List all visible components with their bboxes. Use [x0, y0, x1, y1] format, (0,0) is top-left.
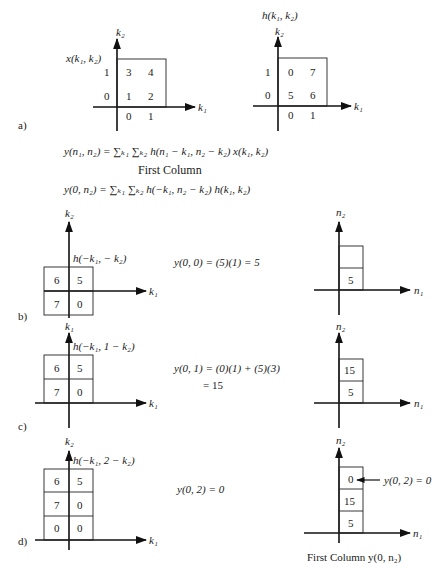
shifted-h-plot: k₁ k₁ h(−k₁, 1 − k₂) 6 5 7 0 — [35, 320, 158, 428]
axis-label-k1: k₁ — [149, 285, 158, 297]
convolution-diagram: a) k₂ k₁ x(k₁, k₂) 1 0 0 1 3 4 1 2 h(k₁,… — [0, 0, 442, 568]
cell: 0 — [77, 386, 83, 398]
axis-label-k1: k₁ — [354, 100, 363, 112]
h-value-1-0: 6 — [310, 89, 316, 101]
panel-label-d: d) — [18, 535, 28, 548]
row-tick-0: 0 — [265, 89, 271, 101]
panel-label-c: c) — [18, 420, 27, 433]
col-tick-1: 1 — [148, 110, 154, 122]
support-box — [278, 58, 327, 106]
cell: 0 — [77, 298, 83, 310]
x-value-0-1: 3 — [126, 66, 132, 78]
shifted-h-label: h(−k₁, 2 − k₂) — [73, 454, 135, 467]
output-plot: n₂ n₁ 15 5 — [314, 320, 424, 428]
first-column-heading: First Column — [138, 163, 202, 177]
output-cell: 15 — [344, 495, 356, 507]
cell: 0 — [77, 522, 83, 534]
output-cell: 5 — [348, 274, 354, 286]
col-tick-0: 0 — [288, 109, 294, 121]
panel-label-a: a) — [18, 119, 27, 132]
h-value-0-1: 0 — [288, 66, 294, 78]
axis-label-n1: n₁ — [413, 527, 423, 539]
y01-result: = 15 — [203, 379, 223, 391]
h-signal-title: h(k₁, k₂) — [262, 9, 298, 22]
flipped-h-plot: k₂ k₁ h(−k₁, − k₂) 6 5 7 0 — [44, 207, 158, 318]
cell: 5 — [77, 475, 83, 487]
x-value-0-0: 1 — [126, 90, 132, 102]
cell: 6 — [54, 274, 60, 286]
axis-label-k2: k₂ — [116, 26, 125, 38]
axis-label-k1: k₁ — [149, 397, 158, 409]
y01-equation: y(0, 1) = (0)(1) + (5)(3) — [173, 362, 280, 375]
output-plot: n₂ n₁ 0 15 5 y(0, 2) = 0 First Column y(… — [304, 434, 432, 564]
panel-label-b: b) — [18, 310, 28, 323]
output-cell: 5 — [348, 386, 354, 398]
axis-label-n2: n₂ — [336, 206, 346, 218]
support-box — [117, 59, 166, 107]
cell: 0 — [77, 499, 83, 511]
axis-label-k1: k₁ — [149, 534, 158, 546]
panel-c: c) k₁ k₁ h(−k₁, 1 − k₂) 6 5 7 0 y(0, 1) … — [18, 320, 424, 433]
axis-label-k2: k₂ — [65, 435, 74, 447]
cell: 0 — [54, 522, 60, 534]
cell: 5 — [77, 274, 83, 286]
row-tick-1: 1 — [265, 66, 271, 78]
axis-label-n2: n₂ — [336, 434, 346, 446]
col-tick-0: 0 — [126, 110, 132, 122]
shifted-h-label: h(−k₁, 1 − k₂) — [73, 340, 135, 353]
output-cell: 5 — [348, 517, 354, 529]
axis-label-n1: n₁ — [414, 284, 424, 296]
axis-label-k1: k₁ — [198, 101, 207, 113]
axis-label-vertical: k₁ — [65, 320, 74, 332]
h-signal-plot: h(k₁, k₂) k₂ k₁ 1 0 0 1 0 7 5 6 — [253, 9, 363, 131]
output-cell: 0 — [348, 473, 354, 485]
panel-d: d) k₂ k₁ h(−k₁, 2 − k₂) 6 5 7 0 0 0 y(0,… — [18, 434, 432, 564]
row-tick-0: 0 — [104, 90, 110, 102]
cell: 7 — [54, 386, 60, 398]
x-signal-plot: k₂ k₁ x(k₁, k₂) 1 0 0 1 3 4 1 2 — [65, 26, 207, 131]
cell: 6 — [54, 362, 60, 374]
convolution-equation: y(n₁, n₂) = ∑ₖ₁ ∑ₖ₂ h(n₁ − k₁, n₂ − k₂) … — [63, 145, 269, 158]
axis-label-n2: n₂ — [336, 320, 346, 332]
first-column-caption: First Column y(0, n₂) — [307, 551, 402, 564]
y02-equation: y(0, 2) = 0 — [176, 483, 225, 496]
cell: 7 — [54, 298, 60, 310]
output-plot: n₂ n₁ 5 — [314, 206, 424, 315]
h-value-0-0: 5 — [288, 89, 294, 101]
axis-label-k2: k₂ — [275, 25, 284, 37]
x-value-1-0: 2 — [148, 90, 154, 102]
first-column-equation: y(0, n₂) = ∑ₖ₁ ∑ₖ₂ h(−k₁, n₂ − k₂) h(k₁,… — [63, 183, 251, 196]
x-signal-title: x(k₁, k₂) — [65, 52, 101, 65]
h-value-1-1: 7 — [310, 66, 316, 78]
axis-label-n1: n₁ — [414, 397, 424, 409]
row-tick-1: 1 — [104, 66, 110, 78]
cell: 5 — [77, 362, 83, 374]
panel-b: b) k₂ k₁ h(−k₁, − k₂) 6 5 7 0 y(0, 0) = … — [18, 206, 424, 323]
shifted-h-plot: k₂ k₁ h(−k₁, 2 − k₂) 6 5 7 0 0 0 — [35, 435, 158, 550]
axis-label-k2: k₂ — [65, 207, 74, 219]
flipped-h-label: h(−k₁, − k₂) — [73, 252, 127, 265]
cell: 6 — [54, 475, 60, 487]
y00-equation: y(0, 0) = (5)(1) = 5 — [173, 256, 260, 269]
panel-a: a) k₂ k₁ x(k₁, k₂) 1 0 0 1 3 4 1 2 h(k₁,… — [18, 9, 363, 196]
x-value-1-1: 4 — [148, 66, 154, 78]
output-cell: 15 — [344, 364, 356, 376]
cell: 7 — [54, 499, 60, 511]
col-tick-1: 1 — [310, 109, 316, 121]
y02-annotation: y(0, 2) = 0 — [383, 474, 432, 487]
